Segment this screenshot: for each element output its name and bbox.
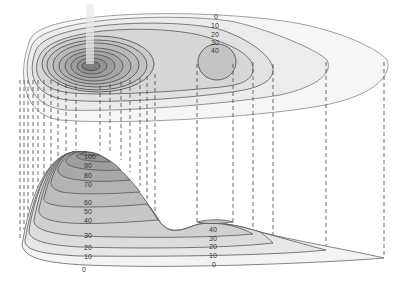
plan-view: 0 10 20 30 40 bbox=[24, 4, 388, 122]
main-peak-contours bbox=[42, 36, 154, 92]
label-plan-40: 40 bbox=[211, 47, 219, 54]
label-secondary-20: 20 bbox=[209, 243, 217, 250]
label-plan-30: 30 bbox=[211, 39, 219, 46]
profile-secondary-40 bbox=[197, 220, 233, 224]
label-secondary-40: 40 bbox=[209, 226, 217, 233]
label-profile-90: 90 bbox=[84, 162, 92, 169]
label-secondary-30: 30 bbox=[209, 235, 217, 242]
label-secondary-10: 10 bbox=[209, 252, 217, 259]
label-profile-30: 30 bbox=[84, 232, 92, 239]
summit-marker bbox=[86, 4, 94, 64]
topographic-diagram: 0 10 20 30 40 bbox=[0, 0, 396, 285]
label-profile-60: 60 bbox=[84, 199, 92, 206]
label-profile-50: 50 bbox=[84, 208, 92, 215]
label-profile-80: 80 bbox=[84, 172, 92, 179]
label-profile-0: 0 bbox=[82, 266, 86, 273]
label-profile-10: 10 bbox=[84, 253, 92, 260]
label-plan-10: 10 bbox=[211, 22, 219, 29]
profile-view: 100 90 80 70 60 50 40 30 20 10 0 40 30 2… bbox=[22, 151, 384, 273]
label-secondary-0: 0 bbox=[212, 261, 216, 268]
label-profile-70: 70 bbox=[84, 181, 92, 188]
label-profile-100: 100 bbox=[84, 153, 96, 160]
label-profile-40: 40 bbox=[84, 217, 92, 224]
label-profile-20: 20 bbox=[84, 244, 92, 251]
label-plan-20: 20 bbox=[211, 31, 219, 38]
label-plan-0: 0 bbox=[214, 13, 218, 20]
